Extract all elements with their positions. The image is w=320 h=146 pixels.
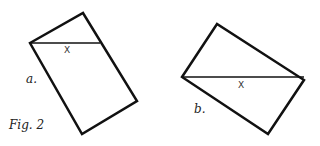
panel-label-b: b. xyxy=(194,102,206,116)
figure-drawing xyxy=(0,0,320,146)
rectangle-a xyxy=(30,13,137,134)
panel-label-a: a. xyxy=(26,72,37,86)
x-label-a: X xyxy=(64,45,70,55)
figure-caption: Fig. 2 xyxy=(9,118,44,132)
rectangle-b xyxy=(182,24,304,134)
x-label-b: X xyxy=(238,80,244,90)
